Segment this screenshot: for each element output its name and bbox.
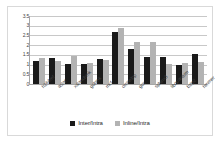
bar-group [111,16,127,84]
y-axis-tick-label: 0.5 [13,72,29,77]
x-axis-label-slot: h264ref [40,85,41,86]
x-axis-label-slot: mcf [104,85,105,86]
y-axis-tick-label: 3 [13,23,29,28]
x-axis-label-slot: omnetpp [120,85,121,86]
y-axis-tick-label: 3.5 [13,14,29,19]
y-axis-tick-label: 2 [13,43,29,48]
y-axis-tick-label: 2.5 [13,33,29,38]
y-axis-tick-label: 1.5 [13,52,29,57]
x-axis-label-slot: gobmk [88,85,89,86]
bar-group [142,16,158,84]
x-axis-label-slot: bzip2 [185,85,186,86]
x-axis-labels: h264refastarxalancbmkgobmkmcfomnetppgccs… [30,85,207,121]
bar-group [95,16,111,84]
y-axis-tick-label: 1 [13,62,29,67]
bar [118,28,124,84]
legend-label: Inline/Intra [123,120,150,127]
x-axis-label-slot: xalancbmk [72,85,73,86]
x-axis-label-slot: gcc [137,85,138,86]
bar [198,62,204,84]
chart-legend: Inter/IntraInline/Intra [8,120,212,127]
x-axis-label-slot: hmmer [201,85,202,86]
bar-group [31,16,47,84]
light-square-swatch [115,121,120,126]
legend-label: Inter/Intra [78,120,103,127]
bar [150,42,156,84]
bar-group [158,16,174,84]
bar-group [63,16,79,84]
x-axis-label-slot: libquantum [169,85,170,86]
legend-item[interactable]: Inter/Intra [70,120,103,127]
x-axis-label-slot: astar [56,85,57,86]
dark-square-swatch [70,121,75,126]
x-axis-label-slot: sphinx3 [153,85,154,86]
legend-item[interactable]: Inline/Intra [115,120,150,127]
chart-container: 3.532.521.510.50 h264refastarxalancbmkgo… [7,6,213,136]
y-axis-tick-label: 0 [13,82,29,87]
bar-group [190,16,206,84]
y-axis: 3.532.521.510.50 [13,11,29,89]
